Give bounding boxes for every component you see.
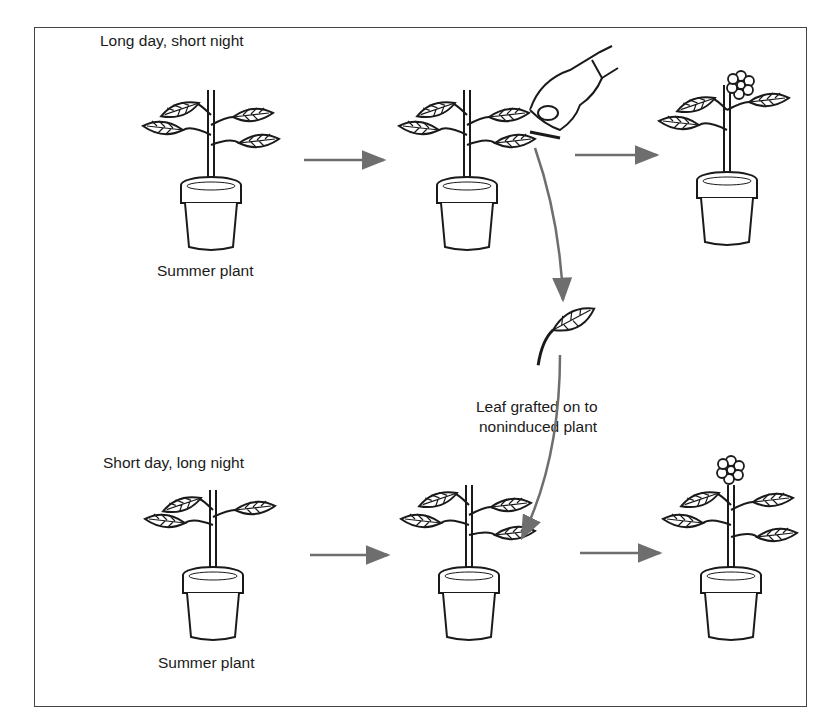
bottom-plant-3 (663, 456, 797, 640)
top-plant-2 (399, 90, 535, 250)
arrow-graft-down (522, 355, 560, 538)
bottom-plant-2 (401, 485, 535, 640)
arrow-cut-down (535, 148, 563, 300)
diagram-artwork (0, 0, 835, 726)
bottom-plant-1 (145, 490, 275, 640)
top-plant-1 (143, 90, 279, 250)
detached-leaf-icon (525, 304, 606, 365)
top-plant-3 (659, 71, 789, 245)
hand-with-scissors-icon (530, 46, 618, 138)
